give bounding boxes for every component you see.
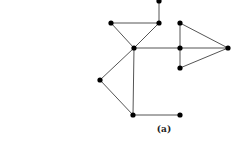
graph-node <box>108 20 113 25</box>
figure-caption: (a) <box>150 124 178 134</box>
graph-diagram <box>0 0 235 156</box>
graph-node <box>156 20 161 25</box>
graph-edge <box>180 48 228 68</box>
graph-edge <box>100 48 134 80</box>
graph-nodes <box>97 0 230 118</box>
graph-node <box>177 112 182 117</box>
graph-node <box>177 45 182 50</box>
graph-node <box>177 65 182 70</box>
graph-edge <box>100 80 133 115</box>
graph-node <box>97 77 102 82</box>
graph-node <box>177 20 182 25</box>
graph-edge <box>134 23 159 48</box>
graph-edges <box>100 1 228 115</box>
graph-edge <box>111 23 134 48</box>
graph-node <box>156 0 161 4</box>
graph-edge <box>133 48 134 115</box>
graph-node <box>131 45 136 50</box>
graph-node <box>130 112 135 117</box>
graph-node <box>225 45 230 50</box>
graph-edge <box>180 23 228 48</box>
